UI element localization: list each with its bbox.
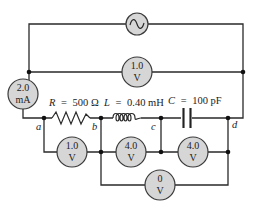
svg-text:V: V [133, 72, 141, 83]
ac-source [126, 13, 148, 35]
svg-text:2.0: 2.0 [17, 82, 30, 93]
svg-text:V: V [127, 152, 135, 163]
source-voltmeter: 1.0 V [122, 57, 152, 87]
lc-voltmeter: 0 V [145, 170, 175, 200]
node-c-label: c [151, 121, 156, 132]
circuit-diagram: 1.0 V 2.0 mA R = 500 Ω L = 0.40 mH C = 1… [0, 0, 255, 215]
capacitor-label: C = 100 pF [168, 95, 222, 106]
resistor-voltmeter: 1.0 V [57, 137, 87, 167]
svg-text:1.0: 1.0 [66, 140, 79, 151]
resistor-label: R = 500 Ω [48, 97, 99, 108]
node-a-label: a [36, 121, 41, 132]
inductor-symbol [113, 114, 141, 122]
inductor-label: L = 0.40 mH [103, 97, 164, 108]
svg-text:mA: mA [16, 94, 32, 105]
svg-text:V: V [68, 152, 76, 163]
svg-text:1.0: 1.0 [131, 60, 144, 71]
svg-text:V: V [156, 185, 164, 196]
svg-text:4.0: 4.0 [187, 140, 200, 151]
ammeter: 2.0 mA [8, 79, 38, 109]
node-b-label: b [92, 121, 97, 132]
node-d-label: d [232, 119, 238, 130]
inductor-voltmeter: 4.0 V [116, 137, 146, 167]
resistor-symbol [52, 112, 90, 124]
svg-text:4.0: 4.0 [125, 140, 138, 151]
svg-text:0: 0 [158, 173, 163, 184]
svg-text:V: V [189, 152, 197, 163]
capacitor-symbol [182, 108, 192, 128]
capacitor-voltmeter: 4.0 V [178, 137, 208, 167]
